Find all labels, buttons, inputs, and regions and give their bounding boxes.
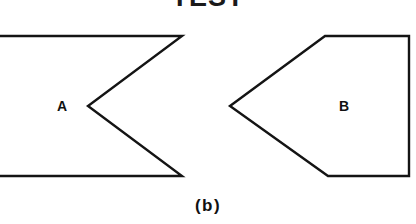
- concave-chevron-shape: [0, 36, 182, 176]
- figure-container: TEST A B (b): [0, 0, 416, 224]
- convex-pentagon-shape: [230, 36, 409, 176]
- figure-caption: (b): [0, 197, 416, 214]
- shape-label-a: A: [57, 99, 67, 113]
- shape-label-b: B: [339, 99, 349, 113]
